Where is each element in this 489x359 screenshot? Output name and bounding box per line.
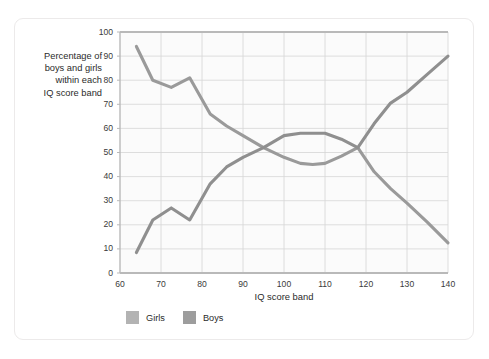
legend-swatch-girls [126,311,139,324]
legend-swatch-boys [183,311,196,324]
y-tick-50: 50 [87,148,113,157]
x-tick-60: 60 [105,280,135,289]
legend-label-girls: Girls [146,313,165,323]
x-tick-90: 90 [228,280,258,289]
legend-item-girls[interactable]: Girls [126,311,165,324]
y-tick-40: 40 [87,172,113,181]
y-tick-30: 30 [87,196,113,205]
x-tick-80: 80 [187,280,217,289]
y-tick-100: 100 [87,28,113,37]
y-tick-90: 90 [87,52,113,61]
x-tick-140: 140 [433,280,463,289]
y-tick-70: 70 [87,100,113,109]
x-tick-120: 120 [351,280,381,289]
legend-label-boys: Boys [203,313,223,323]
y-tick-80: 80 [87,76,113,85]
legend-item-boys[interactable]: Boys [183,311,223,324]
x-tick-70: 70 [146,280,176,289]
x-tick-100: 100 [269,280,299,289]
chart-legend: Girls Boys [126,311,223,324]
line-chart-plot [0,0,489,359]
y-tick-20: 20 [87,220,113,229]
y-tick-10: 10 [87,244,113,253]
y-tick-0: 0 [87,269,113,278]
y-tick-60: 60 [87,124,113,133]
x-tick-110: 110 [310,280,340,289]
x-tick-130: 130 [392,280,422,289]
